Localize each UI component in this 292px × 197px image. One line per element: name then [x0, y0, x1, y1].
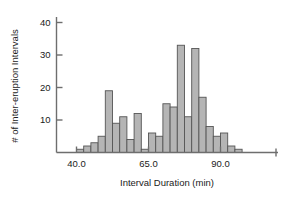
- x-axis-tick-label: 65.0: [139, 158, 158, 169]
- y-axis-label: # of Inter-eruption Intervals: [9, 29, 20, 143]
- histogram-bar: [185, 117, 192, 153]
- histogram-figure: 10203040 40.065.090.0 Interval Duration …: [0, 0, 292, 197]
- histogram-bar: [206, 127, 213, 153]
- histogram-bar: [199, 97, 206, 152]
- y-axis-tick-label: 10: [40, 114, 51, 125]
- histogram-bar: [163, 104, 170, 153]
- x-axis-tick-label: 40.0: [67, 158, 86, 169]
- histogram-bar: [213, 136, 220, 152]
- histogram-bar: [192, 49, 199, 153]
- histogram-bar: [120, 117, 127, 153]
- x-axis-tick-label: 90.0: [211, 158, 230, 169]
- histogram-bar: [84, 146, 91, 153]
- histogram-bar: [221, 133, 228, 153]
- histogram-bar: [134, 114, 141, 153]
- histogram-bar: [127, 140, 134, 153]
- y-axis-tick-label: 40: [40, 17, 51, 28]
- histogram-bar: [228, 146, 235, 153]
- y-axis-tick-label: 20: [40, 82, 51, 93]
- histogram-bar: [170, 107, 177, 153]
- histogram-bar: [91, 143, 98, 153]
- histogram-bar: [149, 133, 156, 153]
- x-axis-label: Interval Duration (min): [120, 177, 214, 188]
- histogram-bar: [105, 91, 112, 153]
- histogram-bar: [113, 123, 120, 152]
- histogram-bar: [156, 136, 163, 152]
- histogram-bar: [177, 45, 184, 152]
- histogram-bar: [98, 136, 105, 152]
- y-axis-tick-label: 30: [40, 49, 51, 60]
